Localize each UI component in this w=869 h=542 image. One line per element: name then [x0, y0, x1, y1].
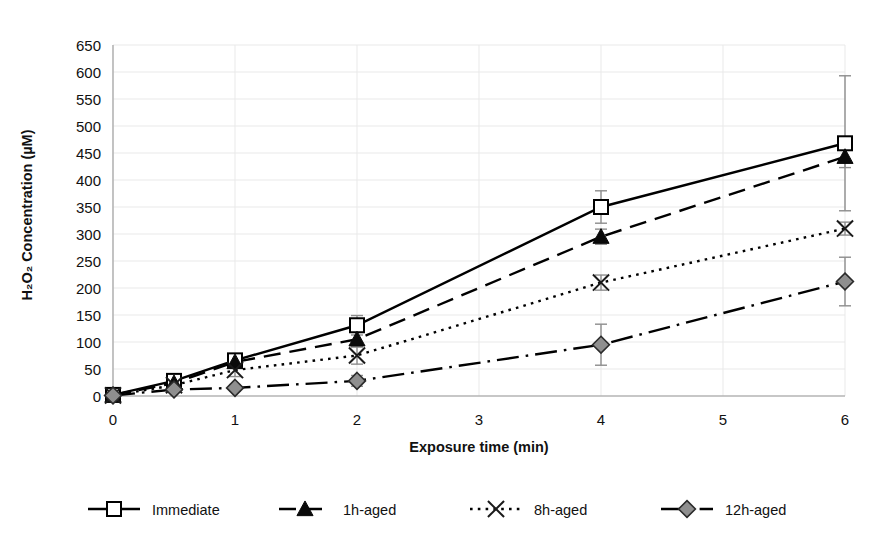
marker-1h-aged — [349, 331, 365, 346]
y-axis-label: H₂O₂ Concentration (µM) — [19, 129, 35, 300]
y-tick-label: 600 — [76, 64, 101, 81]
y-tick-label: 50 — [84, 361, 101, 378]
x-tick-label: 0 — [109, 411, 117, 428]
legend-item-label: 1h-aged — [343, 502, 396, 518]
x-tick-label: 5 — [719, 411, 727, 428]
legend-item-label: 12h-aged — [725, 502, 786, 518]
legend-item-label: Immediate — [152, 502, 220, 518]
line-chart: 050100150200250300350400450500550600650 … — [0, 0, 869, 542]
x-tick-label: 1 — [231, 411, 239, 428]
x-tick-label: 6 — [841, 411, 849, 428]
marker-immediate — [594, 200, 608, 214]
y-tick-label: 350 — [76, 199, 101, 216]
marker-12h-aged — [837, 273, 854, 290]
y-tick-label: 0 — [93, 388, 101, 405]
y-tick-label: 300 — [76, 226, 101, 243]
marker-12h-aged — [593, 336, 610, 353]
x-axis-label: Exposure time (min) — [409, 439, 549, 455]
y-tick-label: 400 — [76, 172, 101, 189]
chart-container: 050100150200250300350400450500550600650 … — [0, 0, 869, 542]
legend-marker — [679, 501, 696, 518]
chart-legend: Immediate1h-aged8h-aged12h-aged — [88, 501, 786, 518]
marker-immediate — [350, 318, 364, 332]
legend-marker — [107, 502, 121, 516]
y-tick-label: 100 — [76, 334, 101, 351]
x-tick-label: 3 — [475, 411, 483, 428]
y-tick-label: 150 — [76, 307, 101, 324]
legend-item-label: 8h-aged — [534, 502, 587, 518]
x-axis-ticks: 0123456 — [109, 411, 849, 428]
y-tick-label: 250 — [76, 253, 101, 270]
y-tick-label: 200 — [76, 280, 101, 297]
marker-12h-aged — [227, 380, 244, 397]
y-tick-label: 550 — [76, 91, 101, 108]
y-tick-label: 650 — [76, 37, 101, 54]
y-axis-ticks: 050100150200250300350400450500550600650 — [76, 37, 101, 405]
y-tick-label: 500 — [76, 118, 101, 135]
x-tick-label: 2 — [353, 411, 361, 428]
gridlines — [113, 45, 845, 396]
y-tick-label: 450 — [76, 145, 101, 162]
x-tick-label: 4 — [597, 411, 605, 428]
